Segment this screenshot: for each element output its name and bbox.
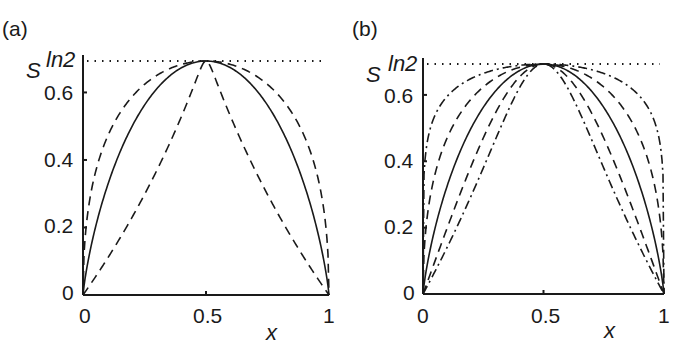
curve-dashed	[83, 61, 329, 295]
panel-a-x-axis-title: x	[265, 320, 278, 345]
panel-b: (b) S ln2 0.6 0.4 0.2 0 0 0.5 1 x	[352, 17, 670, 343]
panel-a-ytick-0.4: 0.4	[44, 148, 74, 171]
panel-b-xtick-1: 1	[658, 304, 670, 327]
curve-dashdot	[423, 64, 664, 294]
panel-b-ytick-0.2: 0.2	[384, 215, 413, 238]
panel-a-xtick-1: 1	[323, 304, 335, 327]
panel-a-xtick-0: 0	[79, 304, 91, 327]
panel-b-xtick-0: 0	[417, 304, 429, 327]
panel-a-label: (a)	[2, 17, 28, 40]
panel-b-plot-area	[423, 58, 664, 294]
panel-b-y-axis-title: S	[366, 62, 381, 87]
panel-b-xtick-0.5: 0.5	[531, 304, 560, 327]
panel-a-y-axis-title: S	[26, 58, 41, 83]
panel-a: (a) S ln2 0.6 0.4 0.2 0 0 0.5 1 x	[2, 17, 335, 345]
figure: (a) S ln2 0.6 0.4 0.2 0 0 0.5 1 x (b) S …	[0, 0, 697, 352]
panel-a-plot-area	[83, 55, 329, 295]
panel-b-ln2-label: ln2	[388, 51, 417, 76]
panel-a-ln2-label: ln2	[46, 47, 75, 72]
panel-b-ytick-0: 0	[403, 281, 415, 304]
panel-a-ytick-0.2: 0.2	[44, 214, 73, 237]
panel-b-label: (b)	[352, 17, 378, 40]
curve-dashed	[423, 64, 664, 294]
panel-b-ytick-0.4: 0.4	[384, 149, 414, 172]
curve-solid	[83, 61, 329, 295]
panel-b-x-axis-title: x	[603, 318, 616, 343]
curve-solid	[423, 64, 664, 294]
panel-a-ytick-0: 0	[62, 281, 74, 304]
panel-a-xtick-0.5: 0.5	[193, 304, 222, 327]
panel-b-ytick-0.6: 0.6	[384, 84, 413, 107]
curve-dashed	[83, 61, 329, 295]
curve-dashed	[423, 64, 664, 294]
panel-a-ytick-0.6: 0.6	[44, 81, 73, 104]
curve-dashdot	[423, 64, 664, 294]
